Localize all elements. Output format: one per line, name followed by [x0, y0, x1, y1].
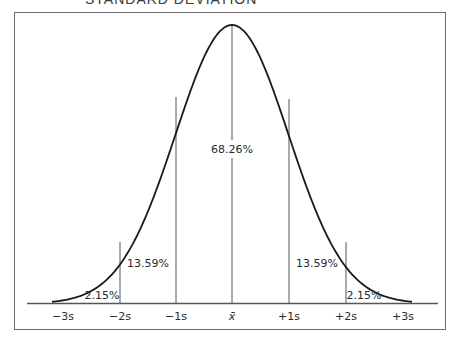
tick-plus-1s: +1s: [278, 310, 300, 323]
tick-mean: x̄: [228, 310, 236, 323]
tick-minus-1s: −1s: [165, 310, 187, 323]
label-right-mid-region: 13.59%: [296, 257, 338, 270]
tick-minus-2s: −2s: [109, 310, 131, 323]
label-right-tail: 2.15%: [347, 289, 382, 302]
tick-minus-3s: −3s: [52, 310, 74, 323]
label-center-region: 68.26%: [211, 143, 253, 156]
label-left-mid-region: 13.59%: [127, 257, 169, 270]
tick-plus-3s: +3s: [392, 310, 414, 323]
bell-curve-chart: 68.26% 13.59% 13.59% 2.15% 2.15% −3s −2s…: [0, 0, 457, 341]
label-left-tail: 2.15%: [85, 289, 120, 302]
tick-plus-2s: +2s: [335, 310, 357, 323]
